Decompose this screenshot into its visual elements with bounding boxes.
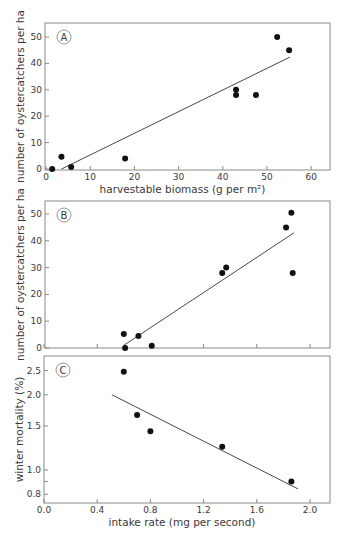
- panel-a: 010203040506001020304050Anumber of oyste…: [14, 10, 330, 195]
- plot-frame: [45, 201, 330, 348]
- y-tick-label: 50: [31, 209, 43, 219]
- data-point: [58, 154, 64, 160]
- panel-label: A: [61, 32, 68, 43]
- x-tick-label: 1.2: [196, 505, 210, 515]
- x-tick-label: 40: [217, 172, 229, 182]
- data-point: [121, 331, 127, 337]
- regression-line: [124, 233, 294, 346]
- x-axis-label: intake rate (mg per second): [109, 516, 256, 528]
- panel-label: C: [60, 365, 67, 376]
- x-tick-label: 50: [261, 172, 273, 182]
- y-tick-label: 40: [31, 58, 43, 68]
- panel-b: 01020304050Bnumber of oystercatchers per…: [14, 188, 330, 361]
- data-point: [122, 155, 128, 161]
- data-point: [274, 34, 280, 40]
- figure: 010203040506001020304050Anumber of oyste…: [0, 0, 344, 539]
- x-tick-label: 60: [305, 172, 317, 182]
- y-tick-label: 20: [31, 289, 43, 299]
- y-tick-label: 30: [31, 263, 43, 273]
- data-point: [68, 164, 74, 170]
- x-tick-label: 0.8: [143, 505, 158, 515]
- y-tick-label: 40: [31, 236, 43, 246]
- x-tick-label: 1.6: [250, 505, 265, 515]
- data-point: [135, 333, 141, 339]
- data-point: [121, 369, 127, 375]
- data-point: [288, 478, 294, 484]
- data-point: [286, 47, 292, 53]
- y-tick-label: 1.0: [27, 465, 42, 475]
- y-tick-label: 30: [31, 85, 43, 95]
- data-point: [233, 87, 239, 93]
- data-point: [283, 224, 289, 230]
- regression-line: [112, 395, 298, 489]
- x-tick-label: 10: [84, 172, 96, 182]
- panel-c: 0.00.40.81.21.62.00.81.01.52.02.5Cwinter…: [13, 356, 330, 528]
- data-point: [122, 345, 128, 351]
- x-tick-label: 0.0: [37, 505, 52, 515]
- data-point: [147, 428, 153, 434]
- plot-frame: [45, 23, 330, 170]
- x-tick-label: 20: [129, 172, 141, 182]
- y-tick-label: 2.0: [27, 390, 42, 400]
- y-axis-label: winter mortality (%): [13, 377, 25, 483]
- data-point: [253, 92, 259, 98]
- panel-label: B: [61, 210, 68, 221]
- y-tick-label: 2.5: [27, 366, 41, 376]
- plot-frame: [44, 356, 330, 503]
- data-point: [134, 412, 140, 418]
- y-tick-label: 10: [31, 316, 43, 326]
- y-tick-label: 1.5: [27, 421, 41, 431]
- x-tick-label: 0.4: [90, 505, 105, 515]
- data-point: [219, 270, 225, 276]
- data-point: [233, 92, 239, 98]
- y-tick-label: 0: [36, 343, 42, 353]
- regression-line: [61, 57, 290, 169]
- x-tick-label: 2.0: [303, 505, 318, 515]
- data-point: [219, 444, 225, 450]
- x-axis-label: harvestable biomass (g per m²): [100, 183, 266, 195]
- y-axis-label: number of oystercatchers per ha: [14, 10, 26, 183]
- y-tick-label: 50: [31, 32, 43, 42]
- data-point: [149, 343, 155, 349]
- data-point: [290, 270, 296, 276]
- data-point: [288, 210, 294, 216]
- y-tick-label: 10: [31, 138, 43, 148]
- y-axis-label: number of oystercatchers per ha: [14, 188, 26, 361]
- data-point: [49, 166, 55, 172]
- x-tick-label: 0: [43, 172, 49, 182]
- x-tick-label: 30: [173, 172, 185, 182]
- y-tick-label: 20: [31, 111, 43, 121]
- y-tick-label: 0: [36, 164, 42, 174]
- y-tick-label: 0.8: [27, 489, 42, 499]
- data-point: [223, 265, 229, 271]
